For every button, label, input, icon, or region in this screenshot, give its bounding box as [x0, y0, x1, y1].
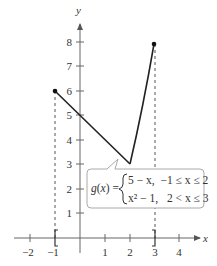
- x-axis-label: x: [202, 232, 208, 244]
- piecewise-function-chart: x y −2 −1 1 2 3 4 1 2 3 4 5 6 7 8: [0, 0, 217, 266]
- y-axis-label: y: [75, 4, 81, 16]
- function-callout: g(x) = 5 − x, −1 ≤ x ≤ 2 x² − 1, 2 < x ≤…: [87, 159, 209, 208]
- endpoint-right: [152, 42, 157, 47]
- x-tick-labels: −2 −1 1 2 3 4: [22, 246, 182, 258]
- svg-text:−2: −2: [22, 246, 34, 258]
- callout-case-1: 5 − x, −1 ≤ x ≤ 2: [128, 174, 209, 187]
- endpoint-left: [53, 89, 58, 94]
- series-linear-piece: [55, 91, 130, 164]
- svg-text:4: 4: [67, 134, 73, 146]
- svg-text:6: 6: [67, 85, 73, 97]
- svg-text:5: 5: [67, 109, 73, 121]
- svg-text:1: 1: [102, 246, 108, 258]
- svg-text:3: 3: [152, 246, 158, 258]
- svg-text:2: 2: [127, 246, 133, 258]
- svg-text:4: 4: [176, 246, 182, 258]
- y-tick-labels: 1 2 3 4 5 6 7 8: [67, 36, 73, 219]
- svg-text:2: 2: [67, 183, 73, 195]
- svg-text:8: 8: [67, 36, 73, 48]
- svg-text:7: 7: [67, 60, 73, 72]
- callout-lhs: g(x) =: [91, 182, 119, 195]
- callout-case-2: x² − 1, 2 < x ≤ 3: [128, 192, 209, 205]
- svg-text:−1: −1: [47, 246, 59, 258]
- svg-text:1: 1: [67, 207, 73, 219]
- svg-text:3: 3: [67, 158, 73, 170]
- series-quadratic-curve: [130, 44, 154, 164]
